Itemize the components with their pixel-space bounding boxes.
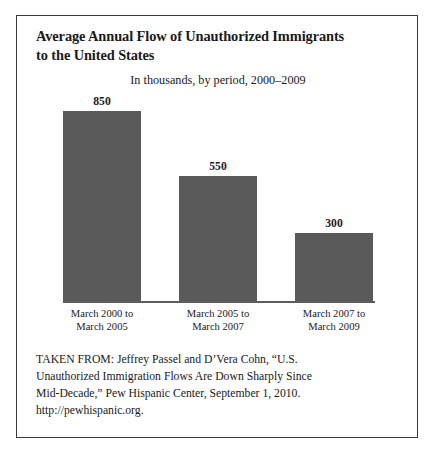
citation-line-3: Mid-Decade,” Pew Hispanic Center, Septem… (36, 386, 391, 403)
category-line-1: March 2005 to (179, 307, 257, 320)
bar-value-label: 300 (325, 218, 342, 230)
category-line-2: March 2005 (63, 320, 141, 333)
category-axis-labels: March 2000 to March 2005 March 2005 to M… (63, 307, 373, 333)
category-label-0: March 2000 to March 2005 (63, 307, 141, 333)
category-label-1: March 2005 to March 2007 (179, 307, 257, 333)
bar-group-0: 850 (63, 96, 141, 301)
bar-group-2: 300 (295, 96, 373, 301)
bars-row: 850 550 300 (63, 96, 373, 301)
bar-value-label: 550 (209, 161, 226, 173)
plot-area: 850 550 300 (17, 96, 419, 301)
figure-frame: Average Annual Flow of Unauthorized Immi… (16, 15, 418, 438)
x-axis-line (63, 301, 375, 303)
title-line-2: to the United States (36, 46, 396, 65)
bar-rect (179, 176, 257, 301)
category-line-2: March 2009 (295, 320, 373, 333)
bar-group-1: 550 (179, 96, 257, 301)
page-title: Average Annual Flow of Unauthorized Immi… (36, 27, 396, 65)
title-line-1: Average Annual Flow of Unauthorized Immi… (36, 27, 396, 46)
citation-line-2: Unauthorized Immigration Flows Are Down … (36, 369, 391, 386)
bar-rect (295, 233, 373, 301)
source-citation: TAKEN FROM: Jeffrey Passel and D’Vera Co… (36, 352, 391, 419)
category-label-2: March 2007 to March 2009 (295, 307, 373, 333)
category-line-2: March 2007 (179, 320, 257, 333)
title-block: Average Annual Flow of Unauthorized Immi… (36, 27, 396, 65)
citation-source-url: http://pewhispanic.org. (36, 403, 391, 420)
category-line-1: March 2000 to (63, 307, 141, 320)
citation-line-1: TAKEN FROM: Jeffrey Passel and D’Vera Co… (36, 352, 391, 369)
bar-rect (63, 111, 141, 301)
category-line-1: March 2007 to (295, 307, 373, 320)
bar-value-label: 850 (93, 96, 110, 108)
chart-subtitle: In thousands, by period, 2000–2009 (17, 73, 419, 88)
